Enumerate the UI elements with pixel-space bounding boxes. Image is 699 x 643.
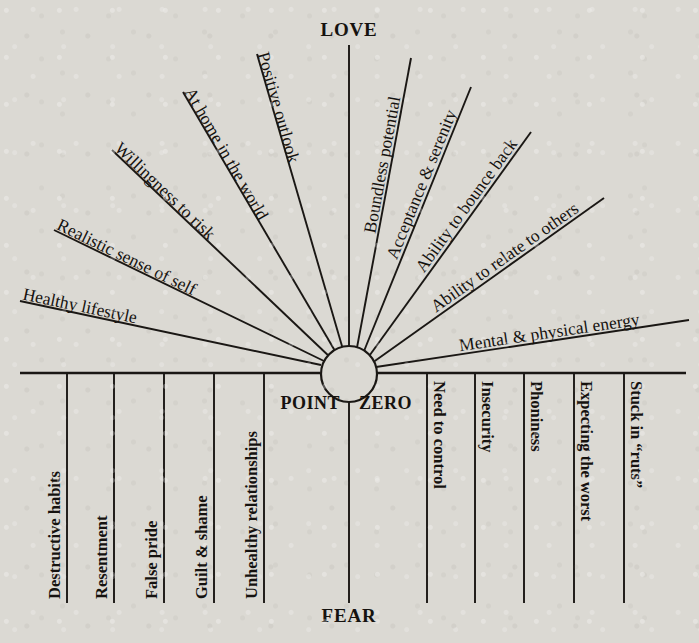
lower-right-column-labels: Need to control Insecurity Phoniness Exp… [430,381,646,522]
column-label-insecurity: Insecurity [478,381,497,453]
column-label-stuck-in-ruts: Stuck in “ruts” [627,381,646,488]
zero-label: ZERO [359,393,412,413]
column-label-phoniness: Phoniness [527,381,546,452]
spoke-label-positive-outlook: Positive outlook [254,50,304,166]
spoke-label-willingness-to-risk: Willingness to risk [111,138,220,244]
spoke-label-realistic-sense-of-self: Realistic sense of self [54,214,200,299]
column-label-guilt-and-shame: Guilt & shame [192,495,211,599]
column-label-need-to-control: Need to control [430,381,449,489]
diagram-page: LOVE FEAR POINT ZERO Healthy lifestyle R… [0,0,699,643]
column-label-expecting-the-worst: Expecting the worst [577,381,596,522]
column-label-destructive-habits: Destructive habits [45,471,64,599]
spoke-label-healthy-lifestyle: Healthy lifestyle [21,284,139,328]
point-zero-diagram: LOVE FEAR POINT ZERO Healthy lifestyle R… [0,0,699,643]
spoke-label-mental-and-physical-energy: Mental & physical energy [458,309,641,355]
lower-left-column-labels: Destructive habits Resentment False prid… [45,430,261,599]
spoke-label-at-home-in-the-world: At home in the world [181,84,273,224]
column-label-resentment: Resentment [92,515,111,599]
love-label: LOVE [320,19,377,40]
fear-label: FEAR [322,605,377,626]
column-label-false-pride: False pride [142,521,161,599]
spoke-label-boundless-potential: Boundless potential [360,95,405,235]
column-label-unhealthy-relationships: Unhealthy relationships [242,430,261,599]
point-label: POINT [280,393,340,413]
